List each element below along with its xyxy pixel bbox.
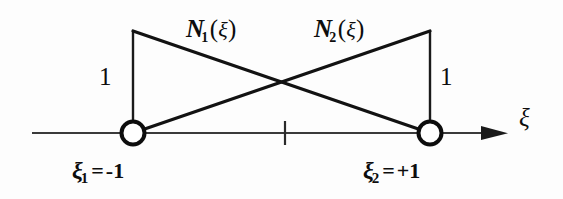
node-1-coordinate-label: ξ1=-1	[72, 158, 124, 186]
n2-argument: ξ	[346, 17, 356, 42]
node-2-coordinate-label: ξ2=+1	[363, 158, 420, 186]
xi-axis-label: ξ	[519, 105, 530, 130]
node-2-subscript: 2	[372, 170, 380, 186]
node-1-value: -1	[106, 158, 124, 183]
node-2-circle	[419, 122, 442, 145]
n1-subscript: 1	[201, 30, 208, 45]
shape-function-n2-label: N2(ξ)	[314, 16, 365, 45]
node-1-circle	[122, 122, 145, 145]
shape-function-n1-label: N1(ξ)	[186, 16, 237, 45]
node-1-equals: =	[91, 158, 104, 183]
right-unit-amplitude-label: 1	[440, 64, 453, 89]
n1-close-paren: )	[228, 15, 237, 42]
node-1-subscript: 1	[81, 170, 89, 186]
n2-subscript: 2	[329, 30, 336, 45]
node-2-equals: =	[382, 158, 395, 183]
n2-close-paren: )	[356, 15, 365, 42]
n1-argument: ξ	[218, 17, 228, 42]
node-2-value: +1	[397, 158, 421, 183]
axis-arrow-head	[481, 126, 508, 140]
left-unit-amplitude-label: 1	[99, 64, 112, 89]
shape-function-figure: N1(ξ) N2(ξ) 1 1 ξ1=-1 ξ2=+1 ξ	[0, 0, 563, 199]
